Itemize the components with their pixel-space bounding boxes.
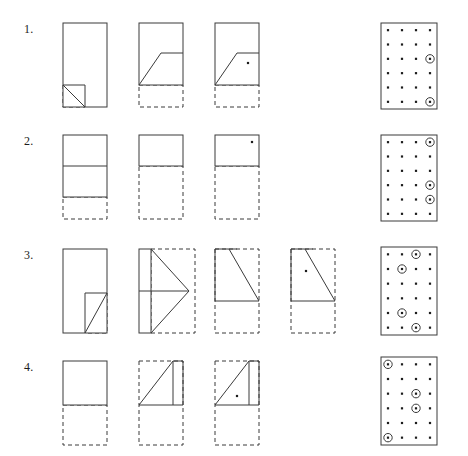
grid-dot[interactable] xyxy=(415,327,417,329)
answer-grid-2[interactable] xyxy=(378,132,440,224)
grid-dot[interactable] xyxy=(387,268,389,270)
fold-step-panel[interactable] xyxy=(212,246,270,336)
grid-dot[interactable] xyxy=(415,283,417,285)
grid-dot[interactable] xyxy=(429,155,431,157)
grid-dot[interactable] xyxy=(415,213,417,215)
grid-dot[interactable] xyxy=(387,198,389,200)
grid-dot[interactable] xyxy=(401,378,403,380)
fold-step-panel[interactable] xyxy=(212,132,270,222)
grid-dot[interactable] xyxy=(429,184,431,186)
grid-dot[interactable] xyxy=(415,101,417,103)
grid-dot[interactable] xyxy=(429,312,431,314)
grid-dot[interactable] xyxy=(401,393,403,395)
grid-dot[interactable] xyxy=(429,58,431,60)
grid-dot[interactable] xyxy=(429,283,431,285)
answer-grid-1[interactable] xyxy=(378,20,440,112)
grid-dot[interactable] xyxy=(415,312,417,314)
grid-dot[interactable] xyxy=(429,363,431,365)
grid-dot[interactable] xyxy=(429,72,431,74)
grid-dot[interactable] xyxy=(401,198,403,200)
fold-step-panel[interactable] xyxy=(60,132,118,222)
grid-dot[interactable] xyxy=(429,327,431,329)
grid-dot[interactable] xyxy=(387,378,389,380)
grid-dot[interactable] xyxy=(429,43,431,45)
grid-dot[interactable] xyxy=(401,437,403,439)
grid-dot[interactable] xyxy=(401,29,403,31)
fold-step-panel[interactable] xyxy=(60,246,118,336)
grid-dot[interactable] xyxy=(387,141,389,143)
grid-dot[interactable] xyxy=(401,253,403,255)
grid-dot[interactable] xyxy=(415,155,417,157)
grid-dot[interactable] xyxy=(415,393,417,395)
grid-dot[interactable] xyxy=(401,72,403,74)
grid-dot[interactable] xyxy=(415,86,417,88)
grid-dot[interactable] xyxy=(387,184,389,186)
grid-dot[interactable] xyxy=(415,422,417,424)
grid-dot[interactable] xyxy=(401,58,403,60)
grid-dot[interactable] xyxy=(429,198,431,200)
grid-dot[interactable] xyxy=(415,43,417,45)
grid-dot[interactable] xyxy=(415,268,417,270)
grid-dot[interactable] xyxy=(387,327,389,329)
grid-dot[interactable] xyxy=(387,213,389,215)
grid-dot[interactable] xyxy=(429,268,431,270)
grid-dot[interactable] xyxy=(401,141,403,143)
fold-step-panel[interactable] xyxy=(60,358,118,448)
grid-dot[interactable] xyxy=(415,170,417,172)
grid-dot[interactable] xyxy=(387,72,389,74)
fold-step-panel[interactable] xyxy=(212,20,270,110)
grid-dot[interactable] xyxy=(429,141,431,143)
grid-dot[interactable] xyxy=(387,58,389,60)
grid-dot[interactable] xyxy=(387,422,389,424)
grid-dot[interactable] xyxy=(387,253,389,255)
grid-dot[interactable] xyxy=(429,393,431,395)
answer-grid-4[interactable] xyxy=(378,354,440,448)
grid-dot[interactable] xyxy=(387,437,389,439)
fold-step-panel[interactable] xyxy=(136,246,200,336)
grid-dot[interactable] xyxy=(401,43,403,45)
grid-dot[interactable] xyxy=(401,407,403,409)
grid-dot[interactable] xyxy=(401,101,403,103)
grid-dot[interactable] xyxy=(387,101,389,103)
grid-dot[interactable] xyxy=(429,422,431,424)
fold-step-panel[interactable] xyxy=(288,246,346,336)
fold-step-panel[interactable] xyxy=(136,132,194,222)
grid-dot[interactable] xyxy=(415,198,417,200)
grid-dot[interactable] xyxy=(429,297,431,299)
grid-dot[interactable] xyxy=(415,297,417,299)
grid-dot[interactable] xyxy=(415,437,417,439)
grid-dot[interactable] xyxy=(387,170,389,172)
grid-dot[interactable] xyxy=(401,170,403,172)
grid-dot[interactable] xyxy=(401,312,403,314)
grid-dot[interactable] xyxy=(415,253,417,255)
grid-dot[interactable] xyxy=(415,141,417,143)
grid-dot[interactable] xyxy=(415,378,417,380)
grid-dot[interactable] xyxy=(387,29,389,31)
grid-dot[interactable] xyxy=(387,43,389,45)
answer-grid-panel[interactable] xyxy=(378,132,440,228)
answer-grid-3[interactable] xyxy=(378,244,440,338)
answer-grid-panel[interactable] xyxy=(378,354,440,452)
answer-grid-panel[interactable] xyxy=(378,20,440,116)
grid-dot[interactable] xyxy=(401,184,403,186)
grid-dot[interactable] xyxy=(401,363,403,365)
grid-dot[interactable] xyxy=(415,58,417,60)
grid-dot[interactable] xyxy=(415,363,417,365)
grid-dot[interactable] xyxy=(401,213,403,215)
grid-dot[interactable] xyxy=(387,407,389,409)
grid-dot[interactable] xyxy=(429,253,431,255)
grid-dot[interactable] xyxy=(429,437,431,439)
fold-step-panel[interactable] xyxy=(212,358,270,448)
fold-step-panel[interactable] xyxy=(136,358,194,448)
grid-dot[interactable] xyxy=(415,184,417,186)
grid-dot[interactable] xyxy=(387,393,389,395)
grid-dot[interactable] xyxy=(429,407,431,409)
grid-dot[interactable] xyxy=(401,297,403,299)
grid-dot[interactable] xyxy=(401,327,403,329)
fold-step-panel[interactable] xyxy=(136,20,194,110)
grid-dot[interactable] xyxy=(387,155,389,157)
grid-dot[interactable] xyxy=(429,29,431,31)
grid-dot[interactable] xyxy=(429,101,431,103)
grid-dot[interactable] xyxy=(415,72,417,74)
answer-grid-panel[interactable] xyxy=(378,244,440,342)
